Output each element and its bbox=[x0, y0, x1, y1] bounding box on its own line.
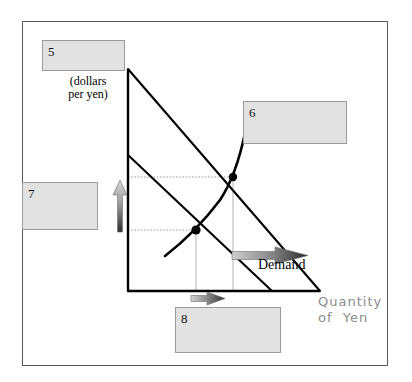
diagram-root: 5 6 7 8 (dollars per yen) Demand Quantit… bbox=[0, 0, 412, 382]
blank-box-6[interactable]: 6 bbox=[243, 101, 347, 144]
demand-curve-label: Demand bbox=[258, 258, 305, 272]
price-increase-arrow bbox=[113, 180, 127, 232]
guide-lines bbox=[128, 177, 233, 291]
equilibrium-point-new bbox=[229, 173, 237, 181]
quantity-increase-arrow bbox=[191, 292, 225, 305]
y-axis-caption: (dollars per yen) bbox=[52, 75, 124, 101]
equilibrium-point-initial bbox=[191, 225, 200, 234]
blank-box-7[interactable]: 7 bbox=[22, 182, 98, 230]
blank-box-8[interactable]: 8 bbox=[175, 307, 281, 353]
x-axis-caption: Quantity of Yen bbox=[318, 294, 382, 326]
blank-box-5[interactable]: 5 bbox=[42, 40, 125, 71]
